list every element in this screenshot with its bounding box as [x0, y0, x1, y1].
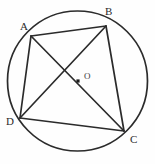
center-point-label: O [84, 71, 91, 81]
geometry-canvas: O A B C D [0, 0, 155, 164]
vertex-label-A: A [20, 20, 28, 32]
vertex-label-D: D [6, 115, 14, 127]
diagonal-BD [20, 26, 106, 118]
vertex-label-B: B [105, 5, 112, 17]
center-point-dot [76, 79, 79, 82]
side-DA [20, 36, 31, 118]
side-CD [20, 118, 124, 131]
side-AB [31, 26, 106, 36]
vertex-label-C: C [130, 133, 137, 145]
geometry-figure: O A B C D [0, 0, 155, 164]
